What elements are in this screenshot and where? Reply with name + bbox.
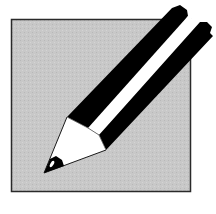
pencil-edit-icon — [0, 0, 216, 214]
